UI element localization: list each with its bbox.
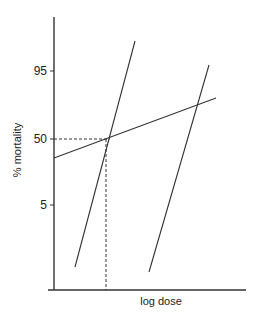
steep-line-left xyxy=(75,41,135,267)
y-tick-label-50: 50 xyxy=(34,132,48,146)
y-axis-label: % mortality xyxy=(11,122,23,177)
steep-line-right xyxy=(149,65,209,272)
shallow-line xyxy=(54,98,216,158)
probit-chart: 95 50 5 log dose % mortality xyxy=(0,0,257,314)
x-axis-label: log dose xyxy=(140,295,182,307)
y-tick-label-95: 95 xyxy=(34,64,48,78)
y-tick-label-5: 5 xyxy=(40,198,47,212)
